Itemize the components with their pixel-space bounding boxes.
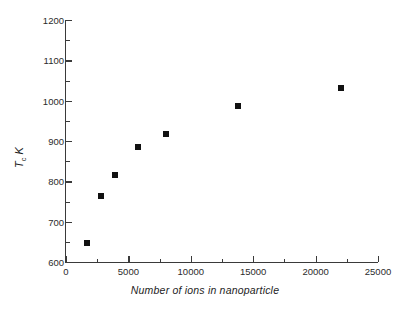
data-point	[338, 85, 344, 91]
y-tick-label: 700	[24, 216, 64, 227]
y-axis-title: TcK	[13, 147, 28, 168]
data-point	[84, 240, 90, 246]
y-tick-label: 1200	[24, 15, 64, 26]
y-tick-label: 1000	[24, 95, 64, 106]
x-tick-label: 10000	[178, 266, 204, 277]
y-tick-minor	[66, 121, 70, 122]
x-tick-minor	[160, 259, 161, 263]
x-tick-major	[253, 256, 254, 262]
x-tick-major	[316, 256, 317, 262]
x-tick-major	[378, 256, 379, 262]
data-point	[98, 193, 104, 199]
y-tick-major	[66, 20, 72, 21]
y-tick-major	[66, 262, 72, 263]
y-tick-label: 1100	[24, 55, 64, 66]
x-tick-label: 5000	[118, 266, 139, 277]
y-tick-major	[66, 101, 72, 102]
x-axis-spine	[65, 262, 378, 263]
x-tick-label: 0	[63, 266, 68, 277]
y-tick-minor	[66, 81, 70, 82]
x-tick-label: 20000	[302, 266, 328, 277]
y-axis-title-unit: K	[13, 147, 25, 154]
y-tick-major	[66, 60, 72, 61]
y-tick-major	[66, 141, 72, 142]
x-tick-label: 25000	[365, 266, 391, 277]
y-tick-label: 600	[24, 257, 64, 268]
x-tick-minor	[284, 259, 285, 263]
y-tick-major	[66, 181, 72, 182]
y-tick-minor	[66, 40, 70, 41]
chart-figure: 600700800900100011001200 050001000015000…	[0, 0, 410, 310]
x-tick-minor	[222, 259, 223, 263]
data-point	[135, 144, 141, 150]
y-tick-minor	[66, 161, 70, 162]
y-tick-label: 900	[24, 136, 64, 147]
y-tick-minor	[66, 202, 70, 203]
y-axis-title-subscript: c	[19, 158, 28, 162]
x-tick-major	[66, 256, 67, 262]
x-tick-minor	[97, 259, 98, 263]
data-point	[235, 103, 241, 109]
x-tick-major	[128, 256, 129, 262]
x-tick-major	[191, 256, 192, 262]
plot-area: 600700800900100011001200 050001000015000…	[66, 20, 378, 262]
x-tick-minor	[347, 259, 348, 263]
y-tick-minor	[66, 242, 70, 243]
data-point	[112, 172, 118, 178]
y-tick-label: 800	[24, 176, 64, 187]
data-point	[163, 131, 169, 137]
y-axis-title-symbol: T	[13, 161, 25, 168]
x-axis-title: Number of ions in nanoparticle	[0, 284, 410, 296]
y-tick-major	[66, 222, 72, 223]
x-tick-label: 15000	[240, 266, 266, 277]
